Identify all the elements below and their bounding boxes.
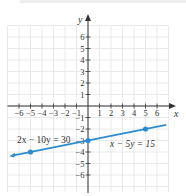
equation-label-left: 2x − 10y = 30 — [17, 135, 71, 145]
coordinate-graph: −6−5−4−3−2−1123456654321−1−2−3−4−5−6 x y… — [0, 0, 186, 196]
y-tick-label: −4 — [75, 147, 85, 157]
plotted-point — [143, 126, 148, 131]
axes — [8, 14, 177, 193]
plotted-point — [85, 138, 90, 143]
line-arrow-icon — [9, 153, 15, 158]
x-tick-label: −4 — [37, 108, 47, 118]
y-tick-label: 2 — [80, 78, 84, 88]
x-tick-label: 4 — [132, 108, 137, 118]
x-tick-label: 6 — [155, 108, 159, 118]
y-tick-label: −1 — [75, 113, 84, 123]
x-tick-label: −2 — [60, 108, 69, 118]
y-tick-label: 6 — [80, 32, 84, 42]
y-axis-label: y — [77, 14, 83, 25]
x-tick-label: −6 — [14, 108, 23, 118]
y-tick-label: −6 — [75, 170, 84, 180]
y-tick-label: −5 — [75, 159, 84, 169]
y-tick-label: 1 — [80, 90, 84, 100]
equation-label-right: x − 5y = 15 — [109, 139, 155, 149]
x-tick-label: 2 — [109, 108, 113, 118]
x-tick-label: 5 — [143, 108, 147, 118]
y-tick-label: 5 — [80, 44, 84, 54]
y-tick-label: −3 — [75, 136, 84, 146]
y-axis-arrow-icon — [85, 14, 91, 21]
x-axis-label: x — [173, 108, 179, 119]
y-tick-label: −2 — [75, 124, 84, 134]
y-tick-label: 3 — [80, 67, 84, 77]
x-tick-label: −5 — [26, 108, 35, 118]
plotted-point — [28, 149, 33, 154]
x-tick-label: 3 — [120, 108, 124, 118]
x-tick-label: 1 — [97, 108, 101, 118]
x-tick-label: −3 — [49, 108, 58, 118]
